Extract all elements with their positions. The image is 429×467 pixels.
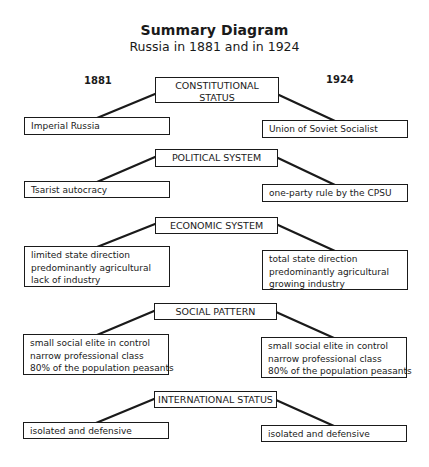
box-1924-international: isolated and defensive	[261, 425, 407, 442]
year-label-right: 1924	[326, 74, 354, 85]
box-1881-political: Tsarist autocracy	[24, 181, 170, 198]
box-1924-political: one-party rule by the CPSU	[262, 184, 408, 202]
category-label: POLITICAL SYSTEM	[156, 152, 277, 164]
box-text: narrow professional class	[30, 350, 162, 363]
box-text: 80% of the population peasants	[30, 362, 162, 375]
category-international-status: INTERNATIONAL STATUS	[154, 391, 277, 408]
box-text: 80% of the population peasants	[268, 365, 400, 378]
category-constitutional-status: CONSTITUTIONAL STATUS	[155, 77, 279, 103]
box-text: limited state direction	[31, 249, 163, 262]
box-text: growing industry	[269, 278, 401, 291]
box-text: total state direction	[269, 253, 401, 266]
box-text: isolated and defensive	[268, 428, 400, 441]
diagram-title: Summary Diagram	[0, 22, 429, 38]
box-text: narrow professional class	[268, 353, 400, 366]
box-1924-constitutional: Union of Soviet Socialist	[262, 120, 408, 138]
box-text: small social elite in control	[268, 340, 400, 353]
category-label: SOCIAL PATTERN	[155, 306, 276, 318]
box-text: isolated and defensive	[30, 425, 162, 438]
box-text: predominantly agricultural	[269, 266, 401, 279]
box-1881-international: isolated and defensive	[23, 422, 169, 439]
box-text: Tsarist autocracy	[31, 184, 163, 197]
box-text: predominantly agricultural	[31, 262, 163, 275]
category-political-system: POLITICAL SYSTEM	[155, 149, 278, 167]
year-label-left: 1881	[84, 75, 112, 86]
box-text: Imperial Russia	[31, 120, 163, 133]
diagram-subtitle: Russia in 1881 and in 1924	[0, 39, 429, 54]
box-1881-economic: limited state direction predominantly ag…	[24, 246, 170, 287]
box-text: small social elite in control	[30, 337, 162, 350]
box-text: lack of industry	[31, 274, 163, 287]
box-1924-economic: total state direction predominantly agri…	[262, 250, 408, 290]
category-label: ECONOMIC SYSTEM	[156, 220, 277, 232]
category-social-pattern: SOCIAL PATTERN	[154, 303, 277, 320]
box-text: one-party rule by the CPSU	[269, 187, 401, 200]
box-1924-social: small social elite in control narrow pro…	[261, 337, 407, 378]
category-label: STATUS	[156, 92, 278, 104]
box-text: Union of Soviet Socialist	[269, 123, 401, 136]
box-1881-social: small social elite in control narrow pro…	[23, 334, 169, 375]
category-label: CONSTITUTIONAL	[156, 80, 278, 92]
category-economic-system: ECONOMIC SYSTEM	[155, 217, 278, 234]
box-1881-constitutional: Imperial Russia	[24, 117, 170, 135]
category-label: INTERNATIONAL STATUS	[155, 394, 276, 406]
